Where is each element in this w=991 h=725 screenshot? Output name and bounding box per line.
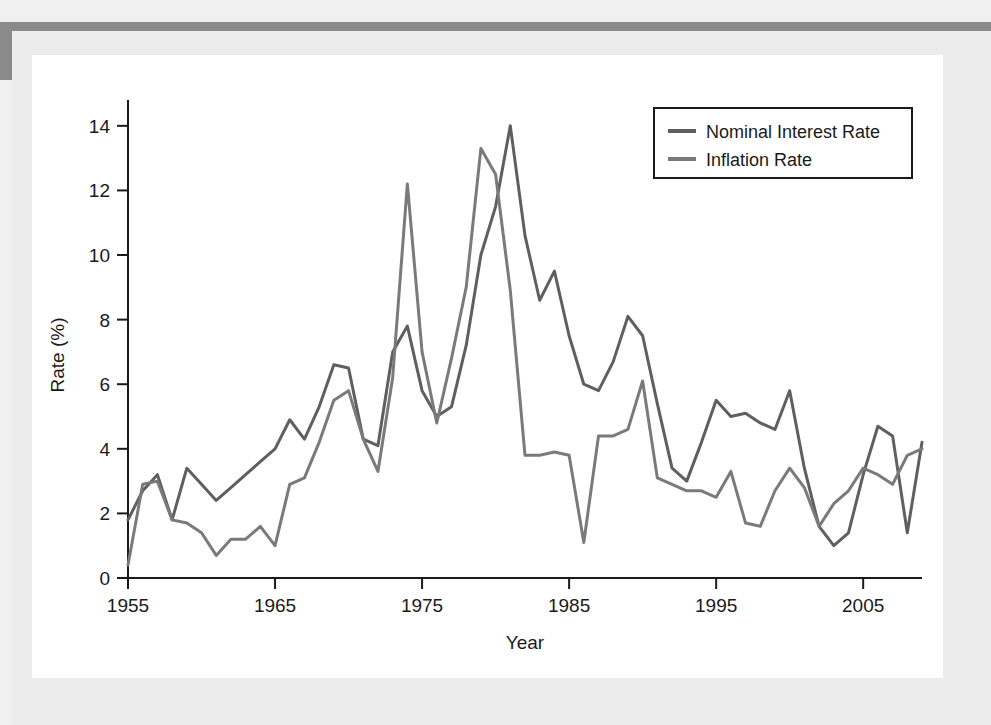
y-tick-label: 14 [89, 116, 111, 137]
x-axis-tick-labels: 195519651975198519952005 [107, 595, 884, 616]
x-tick-label: 2005 [842, 595, 884, 616]
legend: Nominal Interest Rate Inflation Rate [654, 108, 912, 178]
series-line-inflation-rate [128, 148, 922, 565]
y-axis-ticks [117, 126, 128, 578]
y-tick-label: 2 [99, 503, 110, 524]
legend-label-inflation-rate: Inflation Rate [706, 150, 812, 170]
y-axis-tick-labels: 02468101214 [89, 116, 111, 589]
y-tick-label: 8 [99, 310, 110, 331]
series-lines [128, 126, 922, 565]
scan-border-top [8, 22, 991, 31]
y-tick-label: 12 [89, 180, 110, 201]
x-tick-label: 1995 [695, 595, 737, 616]
figure-card: 02468101214 195519651975198519952005 Rat… [32, 55, 943, 678]
y-axis-title: Rate (%) [47, 318, 68, 393]
y-tick-label: 0 [99, 568, 110, 589]
x-tick-label: 1985 [548, 595, 590, 616]
legend-label-nominal-interest-rate: Nominal Interest Rate [706, 122, 880, 142]
x-tick-label: 1975 [401, 595, 443, 616]
line-chart: 02468101214 195519651975198519952005 Rat… [32, 55, 943, 678]
y-tick-label: 10 [89, 245, 110, 266]
x-axis-title: Year [506, 632, 545, 653]
x-axis-ticks [128, 578, 863, 589]
y-tick-label: 6 [99, 374, 110, 395]
series-line-nominal-interest-rate [128, 126, 922, 546]
x-tick-label: 1955 [107, 595, 149, 616]
y-tick-label: 4 [99, 439, 110, 460]
scan-border-left [0, 22, 12, 80]
x-tick-label: 1965 [254, 595, 296, 616]
